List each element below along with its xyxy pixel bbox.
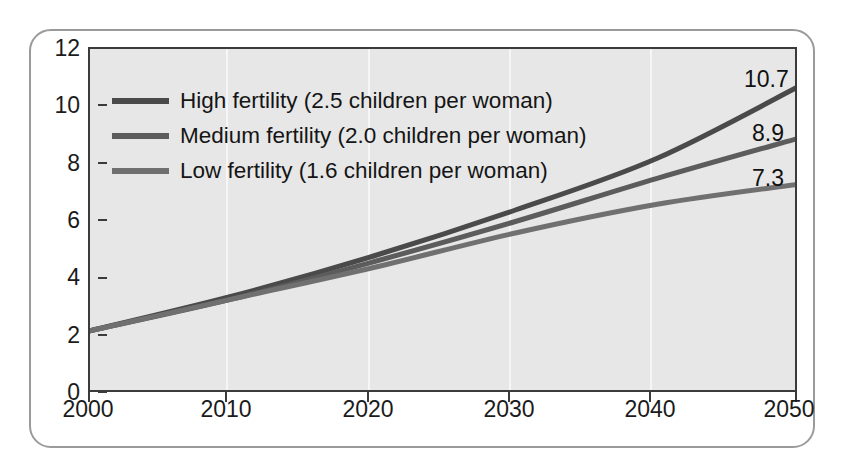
end-label-medium-fertility: 8.9: [752, 122, 784, 145]
x-tick-label-2000: 2000: [62, 398, 113, 421]
x-tick-label-2030: 2030: [483, 398, 534, 421]
x-tick-label-2010: 2010: [200, 398, 251, 421]
x-tick-label-2020: 2020: [342, 398, 393, 421]
x-tick-label-2040: 2040: [624, 398, 675, 421]
end-label-low-fertility: 7.3: [752, 167, 784, 190]
x-tick-label-2050: 2050: [763, 398, 814, 421]
end-label-high-fertility: 10.7: [744, 68, 789, 91]
x-axis: 2000 2010 2020 2030 2040 2050: [0, 0, 850, 468]
